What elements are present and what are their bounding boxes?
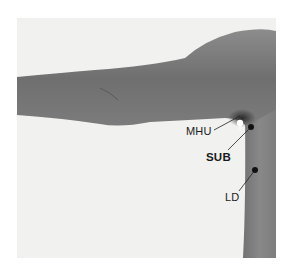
ld-label: LD (225, 192, 239, 203)
arm-torso-illustration (0, 0, 294, 270)
sub-label: SUB (206, 152, 231, 164)
anatomy-photo: MHU SUB LD (0, 0, 294, 270)
ld-marker (252, 167, 258, 173)
sub-marker (248, 124, 254, 130)
mhu-label: MHU (186, 126, 212, 137)
mhu-marker (237, 120, 243, 126)
